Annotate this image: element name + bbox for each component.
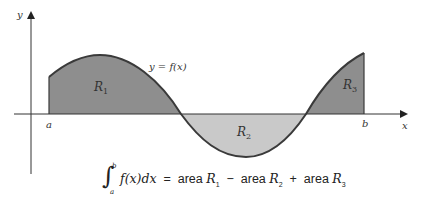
plus-op: + (290, 172, 297, 186)
equals-sign: = (163, 172, 170, 186)
integral-upper-limit: b (112, 162, 116, 170)
minus-op: − (227, 172, 234, 186)
y-axis-arrow-icon (27, 11, 35, 19)
region-r3 (306, 53, 364, 114)
term3-word: area (304, 172, 329, 186)
upper-bound-label: b (362, 118, 368, 129)
term2-word: area (241, 172, 266, 186)
curve-label: y = f(x) (148, 61, 187, 72)
x-axis-label: x (402, 120, 408, 131)
term3-sub: 3 (342, 181, 346, 188)
integral-lower-limit: a (110, 188, 114, 196)
term1-word: area (178, 172, 203, 186)
x-axis-arrow-icon (400, 110, 408, 118)
formula-expression: f(x)dx = area R1 − area R2 + area R3 (120, 171, 346, 188)
term2-sub: 2 (279, 181, 283, 188)
term1-sub: 1 (216, 181, 220, 188)
term1-var: R (206, 171, 215, 186)
y-axis-label: y (16, 9, 23, 20)
integrand: f(x)dx (120, 171, 156, 186)
term2-var: R (269, 171, 278, 186)
integral-formula: ∫ b a f(x)dx = area R1 − area R2 + area … (102, 168, 362, 198)
lower-bound-label: a (46, 119, 52, 130)
term3-var: R (332, 171, 341, 186)
